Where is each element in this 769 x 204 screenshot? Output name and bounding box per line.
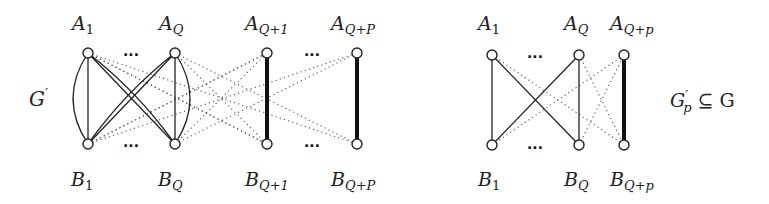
- graph-label-gp-subset-g: G′p⊆ G: [670, 88, 735, 115]
- edge-b1-aq1: [88, 53, 267, 144]
- ellipsis-bottom: ···: [527, 140, 543, 156]
- label-aq: AQ: [157, 12, 184, 37]
- right-graph: ··· ··· A1 AQ AQ+p B1 BQ BQ+p G′p⊆ G: [476, 12, 735, 193]
- edge-bq-aq1: [175, 53, 267, 144]
- label-a1: A1: [476, 12, 500, 37]
- node-aq1: [262, 48, 272, 58]
- edge-aq-bq-curved: [175, 53, 190, 144]
- node-aqp: [352, 48, 362, 58]
- ellipsis-bottom-1: ···: [123, 138, 139, 154]
- label-b1: B1: [70, 168, 93, 193]
- node-a1: [83, 48, 93, 58]
- left-solid-edges: [73, 53, 190, 144]
- left-graph: ··· ··· ··· ··· A1 AQ AQ+1 AQ+P B1 BQ BQ…: [29, 12, 376, 193]
- node-aq: [170, 48, 180, 58]
- edge-aq-bqp: [579, 55, 624, 145]
- ellipsis-top-2: ···: [304, 47, 320, 63]
- ellipsis-bottom-2: ···: [304, 138, 320, 154]
- label-bqp: BQ+P: [330, 168, 376, 193]
- node-bqp: [619, 140, 629, 150]
- label-aqp: AQ+P: [329, 12, 375, 37]
- node-bq: [170, 139, 180, 149]
- edge-bq-aqp: [579, 55, 624, 145]
- label-aqp: AQ+p: [608, 12, 654, 37]
- right-solid-edges: [492, 55, 579, 145]
- left-dotted-edges: [88, 53, 357, 144]
- edge-a1-bq1-b: [92, 55, 267, 144]
- node-aqp: [619, 50, 629, 60]
- label-bq1: BQ+1: [244, 168, 289, 193]
- right-dotted-edges: [492, 55, 624, 145]
- ellipsis-top: ···: [527, 49, 543, 65]
- label-aq: AQ: [562, 12, 589, 37]
- node-bq: [574, 140, 584, 150]
- edge-b1-aq1-b: [92, 53, 267, 142]
- edge-a1-bq1: [88, 53, 267, 144]
- edge-b1-aqp: [492, 55, 624, 145]
- ellipsis-top-1: ···: [123, 47, 139, 63]
- edge-a1-b1-curved: [73, 53, 88, 144]
- graph-label-g-prime: G′: [29, 86, 48, 111]
- node-a1: [487, 50, 497, 60]
- label-a1: A1: [70, 12, 94, 37]
- edge-aq-bq1: [175, 53, 267, 144]
- edge-b1-aqp: [88, 53, 357, 144]
- label-aq1: AQ+1: [243, 12, 289, 37]
- node-b1: [83, 139, 93, 149]
- node-b1: [487, 140, 497, 150]
- label-bq: BQ: [563, 168, 589, 193]
- diagram-canvas: ··· ··· ··· ··· A1 AQ AQ+1 AQ+P B1 BQ BQ…: [0, 0, 769, 204]
- node-aq: [574, 50, 584, 60]
- label-bqp: BQ+p: [609, 168, 655, 193]
- label-bq: BQ: [157, 168, 183, 193]
- node-bq1: [262, 139, 272, 149]
- node-bqp: [352, 139, 362, 149]
- label-b1: B1: [477, 168, 500, 193]
